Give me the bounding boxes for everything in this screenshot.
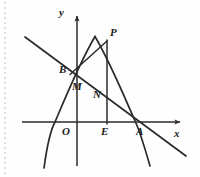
point-label-m: M (72, 81, 82, 92)
point-label-a: A (136, 126, 143, 137)
point-label-p: P (110, 27, 117, 38)
geometry-figure: x y P B M N E A O (0, 0, 200, 177)
point-label-b: B (59, 64, 66, 75)
point-label-o: O (62, 126, 70, 137)
parabola-curve (44, 37, 150, 169)
x-axis-label: x (174, 128, 180, 139)
point-label-e: E (101, 126, 108, 137)
point-label-n: N (93, 89, 101, 100)
segment-bp (70, 41, 107, 75)
y-axis-label: y (59, 7, 64, 18)
